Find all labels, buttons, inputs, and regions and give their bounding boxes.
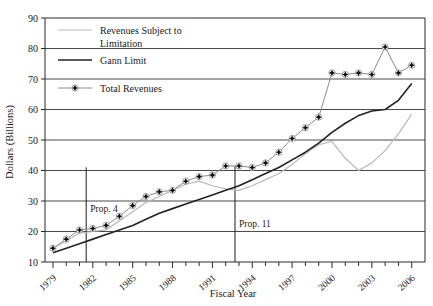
annotation-label-0: Prop. 4	[90, 204, 118, 214]
ytick-label-50: 50	[28, 135, 38, 146]
series-path-2	[53, 47, 412, 248]
chart-legend: Revenues Subject toLimitationGann LimitT…	[58, 25, 182, 94]
annotation-rules	[86, 166, 235, 262]
xtick-label-2000: 2000	[316, 273, 337, 293]
ytick-label-70: 70	[28, 74, 38, 85]
ytick-label-80: 80	[28, 43, 38, 54]
ytick-label-30: 30	[28, 196, 38, 207]
xtick-label-1982: 1982	[77, 273, 98, 293]
ytick-label-10: 10	[28, 257, 38, 268]
legend-label-0: Revenues Subject to	[100, 25, 182, 36]
xtick-label-1985: 1985	[117, 273, 138, 293]
y-axis-tick-labels: 908070605040302010	[28, 13, 38, 268]
xtick-label-2003: 2003	[356, 273, 377, 293]
chart-container: 908070605040302010 197919821985198819911…	[0, 0, 433, 306]
y-axis-title: Dollars (Billions)	[4, 105, 16, 179]
xtick-label-1997: 1997	[276, 273, 297, 293]
legend-label-1: Gann Limit	[100, 55, 147, 66]
annotation-label-1: Prop. 11	[239, 219, 271, 229]
xtick-label-1979: 1979	[37, 273, 58, 293]
ytick-label-40: 40	[28, 165, 38, 176]
xtick-label-1988: 1988	[157, 273, 178, 293]
xtick-label-2006: 2006	[396, 273, 417, 293]
ytick-label-60: 60	[28, 104, 38, 115]
revenue-limit-line-chart: 908070605040302010 197919821985198819911…	[0, 0, 433, 306]
x-axis-title: Fiscal Year	[210, 288, 257, 299]
legend-label-2: Total Revenues	[100, 83, 162, 94]
x-axis-ticks	[53, 262, 412, 268]
ytick-label-90: 90	[28, 13, 38, 24]
y-axis-ticks	[41, 18, 45, 262]
ytick-label-20: 20	[28, 226, 38, 237]
data-markers	[50, 44, 415, 252]
legend-label-0-cont: Limitation	[100, 38, 142, 49]
